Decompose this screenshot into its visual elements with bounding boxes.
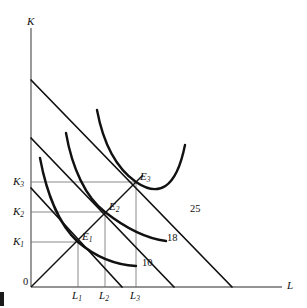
x-tick-label-l1: L1 (72, 290, 82, 301)
diagram-canvas (0, 0, 307, 308)
origin-label: 0 (23, 277, 28, 288)
y-axis-label: K (27, 16, 34, 27)
isoquant-label-10: 10 (142, 258, 153, 269)
y-tick-label-k1: K1 (13, 236, 24, 247)
equilibrium-label-e2: E2 (109, 201, 119, 212)
x-axis-label: L (287, 280, 293, 291)
equilibrium-label-e3: E3 (140, 171, 150, 182)
x-tick-label-l3: L3 (130, 290, 140, 301)
isoquant-label-25: 25 (190, 204, 201, 215)
isoquant-curves (40, 110, 185, 266)
figure-container: K L 0 K1 K2 K3 L1 L2 L3 E1 E2 E3 10 18 2… (0, 0, 307, 308)
y-tick-label-k3: K3 (13, 176, 24, 187)
x-tick-label-l2: L2 (99, 290, 109, 301)
isoquant-18 (66, 133, 166, 241)
isoquant-label-18: 18 (167, 233, 178, 244)
axis-lines (31, 28, 282, 287)
y-tick-label-k2: K2 (13, 206, 24, 217)
equilibrium-label-e1: E1 (82, 231, 92, 242)
